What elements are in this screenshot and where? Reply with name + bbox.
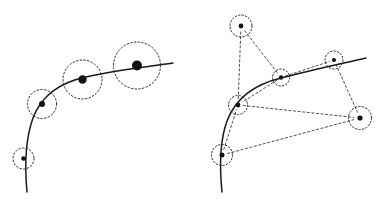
graph-node-mid-curve-dot <box>279 75 283 79</box>
graph-node-right-dot <box>357 115 362 120</box>
left-panel-region <box>0 0 193 199</box>
left-panel <box>0 0 193 199</box>
graph-node-top-right-dot <box>332 58 336 62</box>
graph-node-top-left-dot <box>239 24 244 29</box>
feature-point-2-dot <box>39 101 45 107</box>
graph-node-left-mid-dot <box>236 103 241 108</box>
graph-node-bottom-left-dot <box>220 153 225 158</box>
figure-root <box>0 0 386 199</box>
right-panel <box>193 0 386 199</box>
feature-point-1-dot <box>21 156 26 161</box>
right-panel-region <box>193 0 386 199</box>
feature-point-4-dot <box>132 61 142 71</box>
feature-point-3-dot <box>78 75 86 83</box>
figure-canvas <box>0 0 386 199</box>
